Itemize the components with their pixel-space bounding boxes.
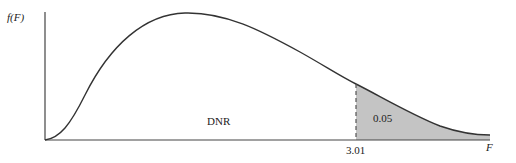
f-distribution-chart	[0, 0, 516, 163]
dnr-label: DNR	[207, 116, 230, 127]
alpha-label: 0.05	[373, 113, 392, 124]
y-axis-label: f(F)	[7, 12, 24, 23]
critical-value-label: 3.01	[346, 145, 365, 156]
x-axis-label: F	[486, 142, 493, 153]
